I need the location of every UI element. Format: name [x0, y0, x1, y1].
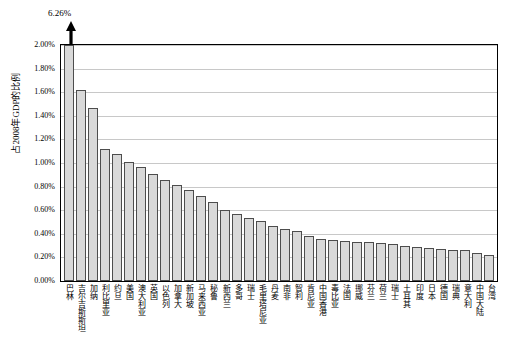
- bar: [292, 231, 303, 281]
- x-axis-tick-label: 马来西亚: [195, 284, 206, 354]
- x-axis-tick-label: 瑞典: [449, 284, 460, 354]
- bar: [364, 242, 375, 281]
- bar: [112, 154, 123, 281]
- bar: [160, 180, 171, 281]
- bar: [268, 226, 279, 281]
- x-axis-tick-label: 美国: [123, 284, 134, 354]
- x-axis-tick-label: 毛里塔尼亚: [256, 284, 267, 354]
- y-axis-tick-label: 1.20%: [34, 135, 55, 143]
- x-axis-tick-label: 德国: [437, 284, 448, 354]
- bar: [232, 214, 243, 281]
- peak-value-annotation: 6.26%: [48, 8, 71, 18]
- y-axis-tick-label: 1.40%: [34, 112, 55, 120]
- x-axis-tick-label: 瑞士: [244, 284, 255, 354]
- bar: [484, 255, 495, 281]
- x-axis-tick-label: 中国香港: [316, 284, 327, 354]
- x-axis-tick-label: 荷兰: [376, 284, 387, 354]
- x-axis-tick-label: 毒比亚: [328, 284, 339, 354]
- x-axis-tick-label: 多哥: [231, 284, 242, 354]
- y-axis-tick-label: 0.40%: [34, 230, 55, 238]
- x-axis-tick-label: 法国: [340, 284, 351, 354]
- bar: [412, 247, 423, 281]
- bar: [328, 240, 339, 281]
- bar: [148, 174, 159, 281]
- bar: [220, 210, 231, 281]
- x-axis-tick-label: 台湾: [485, 284, 496, 354]
- bar: [172, 185, 183, 281]
- bar: [196, 196, 207, 281]
- x-axis-tick-label: 加拿大: [171, 284, 182, 354]
- x-axis-tick-label: 巴林: [63, 284, 74, 354]
- x-axis-tick-label: 智利: [292, 284, 303, 354]
- bar: [340, 241, 351, 281]
- bar: [244, 218, 255, 281]
- x-axis-tick-label: 挪威: [352, 284, 363, 354]
- x-axis-tick-label: 日本: [424, 284, 435, 354]
- bar: [460, 250, 471, 281]
- bar: [352, 242, 363, 281]
- bar: [424, 248, 435, 281]
- bar: [448, 250, 459, 281]
- bar: [280, 229, 291, 281]
- bar: [100, 149, 111, 281]
- x-axis-tick-label: 约旦: [111, 284, 122, 354]
- y-axis-tick-label: 0.00%: [34, 277, 55, 285]
- x-axis-tick-label: 土耳其: [400, 284, 411, 354]
- bar: [64, 45, 75, 281]
- x-axis-tick-label: 加纳: [87, 284, 98, 354]
- bar-series: [61, 45, 497, 281]
- bar: [136, 167, 147, 281]
- bar: [316, 239, 327, 281]
- y-axis-tick-label: 1.80%: [34, 65, 55, 73]
- bar: [208, 202, 219, 281]
- bar: [436, 249, 447, 281]
- bar: [76, 90, 87, 281]
- x-axis: 巴林吉尔吉斯斯坦加纳利比里亚约旦美国澳大利亚英国以色列加拿大新加坡马来西亚秘鲁新…: [60, 284, 498, 354]
- y-axis-tick-label: 0.60%: [34, 206, 55, 214]
- bar: [88, 108, 99, 281]
- x-axis-tick-label: 南非: [280, 284, 291, 354]
- x-axis-tick-label: 意大利: [461, 284, 472, 354]
- y-axis-tick-label: 0.20%: [34, 253, 55, 261]
- x-axis-tick-label: 新加坡: [183, 284, 194, 354]
- bar: [376, 243, 387, 281]
- x-axis-tick-label: 以色列: [159, 284, 170, 354]
- x-axis-tick-label: 印度: [412, 284, 423, 354]
- y-axis-tick-label: 1.60%: [34, 88, 55, 96]
- x-axis-tick-label: 吉尔吉斯斯坦: [75, 284, 86, 354]
- x-axis-tick-label: 利比里亚: [99, 284, 110, 354]
- bar: [124, 162, 135, 281]
- x-axis-tick-label: 瑞士: [388, 284, 399, 354]
- chart-container: 6.26% 占2008年GDP的比例 0.00%0.20%0.40%0.60%0…: [0, 0, 520, 356]
- x-axis-tick-label: 丹麦: [268, 284, 279, 354]
- x-axis-tick-label: 中国大陆: [473, 284, 484, 354]
- y-axis-tick-label: 1.00%: [34, 159, 55, 167]
- x-axis-tick-label: 新西兰: [219, 284, 230, 354]
- plot-area: [60, 44, 498, 282]
- bar: [388, 244, 399, 281]
- y-axis-tick-label: 2.00%: [34, 41, 55, 49]
- x-axis-tick-label: 芬兰: [364, 284, 375, 354]
- bar: [184, 190, 195, 281]
- x-axis-tick-label: 肯尼亚: [304, 284, 315, 354]
- x-axis-tick-label: 秘鲁: [207, 284, 218, 354]
- y-axis-tick-label: 0.80%: [34, 183, 55, 191]
- bar: [304, 236, 315, 281]
- bar: [472, 253, 483, 281]
- bar: [256, 221, 267, 281]
- bar: [400, 246, 411, 281]
- x-axis-tick-label: 澳大利亚: [135, 284, 146, 354]
- y-axis: 0.00%0.20%0.40%0.60%0.80%1.00%1.20%1.40%…: [16, 44, 58, 282]
- x-axis-tick-label: 英国: [147, 284, 158, 354]
